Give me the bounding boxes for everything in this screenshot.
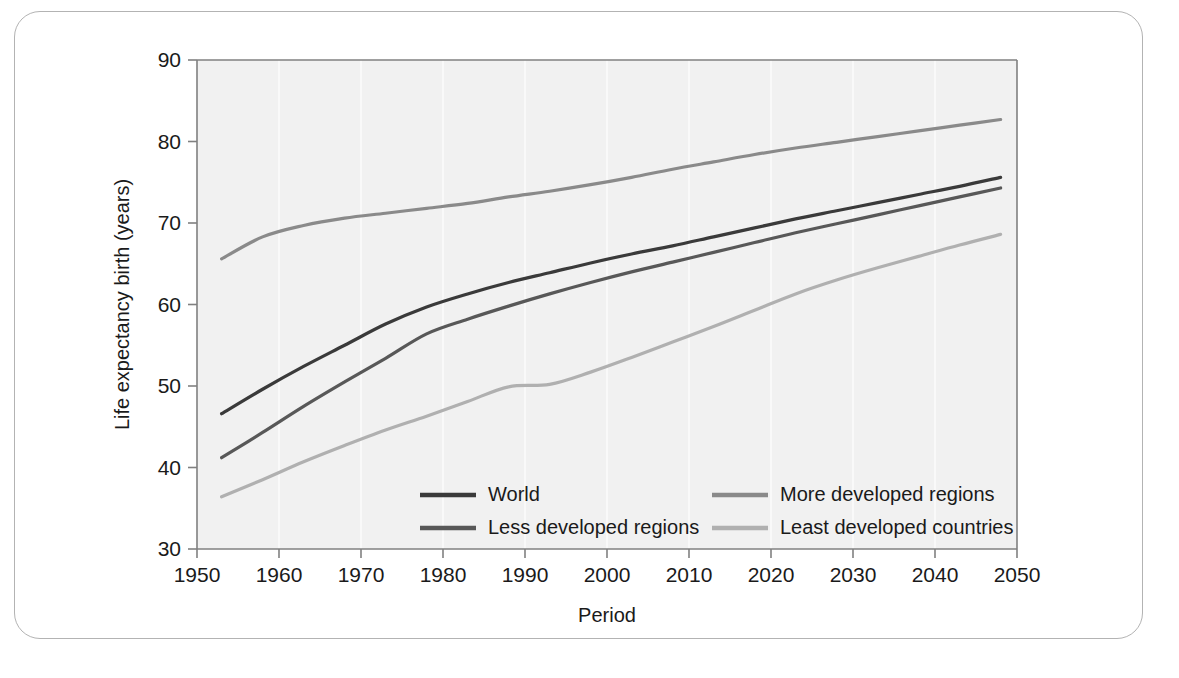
x-tick-label: 1980: [420, 563, 467, 586]
y-tick-label: 80: [158, 130, 181, 153]
line-chart: 1950196019701980199020002010202020302040…: [0, 0, 1179, 678]
caption-remnant: [18, 652, 918, 670]
x-tick-label: 2050: [994, 563, 1041, 586]
y-tick-label: 90: [158, 48, 181, 71]
x-tick-label: 2020: [748, 563, 795, 586]
y-tick-label: 60: [158, 293, 181, 316]
legend-label: Less developed regions: [488, 516, 699, 538]
x-tick-label: 1960: [256, 563, 303, 586]
y-tick-label: 70: [158, 211, 181, 234]
x-tick-label: 2010: [666, 563, 713, 586]
legend-label: More developed regions: [780, 483, 995, 505]
x-tick-label: 1970: [338, 563, 385, 586]
x-tick-label: 2030: [830, 563, 877, 586]
y-tick-labels: 30405060708090: [158, 48, 181, 560]
x-axis-title: Period: [578, 604, 636, 626]
y-tick-label: 50: [158, 374, 181, 397]
x-tick-label: 1950: [174, 563, 221, 586]
chart-svg: 1950196019701980199020002010202020302040…: [0, 0, 1179, 678]
legend-label: Least developed countries: [780, 516, 1014, 538]
x-tick-label: 2040: [912, 563, 959, 586]
y-tick-label: 30: [158, 537, 181, 560]
y-axis-title: Life expectancy birth (years): [111, 179, 133, 430]
x-tick-labels: 1950196019701980199020002010202020302040…: [174, 563, 1041, 586]
y-tick-label: 40: [158, 456, 181, 479]
legend-label: World: [488, 483, 540, 505]
x-tick-label: 1990: [502, 563, 549, 586]
x-tick-label: 2000: [584, 563, 631, 586]
